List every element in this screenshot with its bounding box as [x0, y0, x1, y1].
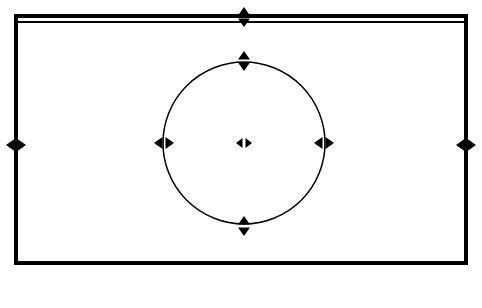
circle-right-handle-icon[interactable] — [314, 137, 334, 149]
circle-outline[interactable] — [163, 62, 325, 224]
circle-top-handle-icon[interactable] — [238, 51, 250, 71]
selection-handles[interactable] — [6, 7, 476, 236]
circle-center-handle-icon[interactable] — [236, 138, 252, 148]
circle-bottom-handle-icon[interactable] — [238, 216, 250, 236]
drawing-canvas[interactable]: ⇕ ⇆ — [0, 0, 482, 308]
legend-row: ⇕ ⇆ — [0, 272, 482, 306]
circle-left-handle-icon[interactable] — [154, 137, 174, 149]
selected-circle[interactable] — [163, 62, 325, 224]
drawing-surface[interactable] — [0, 0, 482, 308]
